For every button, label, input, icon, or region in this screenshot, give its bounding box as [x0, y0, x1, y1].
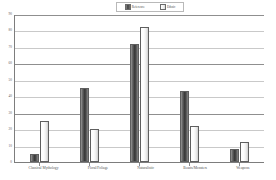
x-axis-tick-label: Floral/Foliage: [88, 166, 108, 170]
y-axis-tick-label: 20: [0, 128, 12, 131]
y-axis-tick-label: 90: [0, 13, 12, 16]
bar-series1[interactable]: [130, 44, 139, 162]
y-axis-tick-label: 50: [0, 79, 12, 82]
bar-series1[interactable]: [180, 91, 189, 162]
legend-label-series2: Ethnic: [167, 5, 175, 9]
legend-label-series1: Reference: [132, 5, 145, 9]
chart-legend: Reference Ethnic: [116, 2, 184, 12]
bar-series2[interactable]: [240, 142, 249, 162]
bar-groups: [15, 15, 264, 162]
chart-root: Reference Ethnic 0102030405060708090 Cla…: [0, 0, 276, 180]
x-axis-tick-label: Classical Mythology: [29, 166, 59, 170]
series1-swatch-icon: [125, 4, 131, 10]
legend-item-series1: Reference: [125, 4, 145, 10]
legend-item-series2: Ethnic: [160, 4, 175, 10]
x-axis-tick-label: Weapons: [236, 166, 249, 170]
y-axis-tick-label: 40: [0, 95, 12, 98]
x-axis-tick-mark: [39, 163, 40, 166]
x-axis-tick-mark: [189, 163, 190, 166]
y-axis-tick-label: 0: [0, 161, 12, 164]
plot-area: [14, 15, 264, 163]
bar-series2[interactable]: [140, 27, 149, 162]
x-axis-tick-mark: [139, 163, 140, 166]
x-axis-labels: Classical MythologyFloral/FoliageNatural…: [14, 166, 264, 170]
bar-group: [180, 15, 199, 162]
y-axis-tick-label: 30: [0, 112, 12, 115]
bar-series2[interactable]: [40, 121, 49, 162]
bar-group: [80, 15, 99, 162]
series2-swatch-icon: [160, 4, 166, 10]
bar-series1[interactable]: [230, 149, 239, 162]
y-axis-tick-label: 70: [0, 46, 12, 49]
x-axis-tick-label: Beasts/Monsters: [183, 166, 207, 170]
x-axis-tick-mark: [89, 163, 90, 166]
y-axis-tick-label: 80: [0, 29, 12, 32]
bar-group: [130, 15, 149, 162]
y-axis-tick-label: 10: [0, 145, 12, 148]
bar-series2[interactable]: [190, 126, 199, 162]
y-axis-tick-label: 60: [0, 62, 12, 65]
x-axis-tick-label: Naturalistic: [137, 166, 154, 170]
bar-group: [30, 15, 49, 162]
x-axis-tick-mark: [239, 163, 240, 166]
bar-series2[interactable]: [90, 129, 99, 162]
bar-series1[interactable]: [30, 154, 39, 162]
bar-series1[interactable]: [80, 88, 89, 162]
bar-group: [230, 15, 249, 162]
